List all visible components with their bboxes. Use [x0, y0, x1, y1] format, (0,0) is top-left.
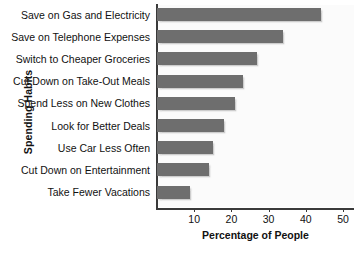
x-axis-line	[156, 208, 354, 210]
bar	[157, 141, 213, 154]
x-tick-mark	[306, 209, 307, 212]
bar	[157, 163, 209, 176]
x-tick-label: 20	[216, 213, 246, 225]
x-tick-label: 50	[328, 213, 358, 225]
x-tick-label: 40	[291, 213, 321, 225]
bar	[157, 30, 283, 43]
bar-chart: Save on Gas and ElectricitySave on Telep…	[0, 0, 364, 253]
x-tick-mark	[231, 209, 232, 212]
bar	[157, 119, 224, 132]
y-axis-title: Spending Habits	[22, 37, 34, 187]
bar	[157, 186, 190, 199]
bar	[157, 52, 257, 65]
x-tick-label: 30	[254, 213, 284, 225]
x-tick-mark	[343, 209, 344, 212]
x-tick-mark	[194, 209, 195, 212]
bar	[157, 8, 321, 21]
x-axis-title: Percentage of People	[157, 229, 354, 241]
bar	[157, 97, 235, 110]
x-tick-label: 10	[179, 213, 209, 225]
category-label: Take Fewer Vacations	[0, 186, 150, 198]
bar	[157, 75, 243, 88]
category-label: Save on Gas and Electricity	[0, 9, 150, 21]
x-tick-mark	[269, 209, 270, 212]
